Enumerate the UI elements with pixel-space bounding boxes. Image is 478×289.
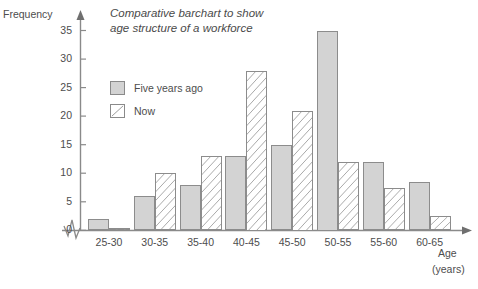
bar-30-35-now (155, 173, 176, 230)
y-tick-label: 30 (52, 52, 72, 64)
bar-60-65-now (430, 216, 451, 230)
x-axis-units: (years) (432, 263, 465, 275)
y-axis-title: Frequency (3, 8, 53, 20)
y-tick-label: 0 (52, 223, 72, 235)
x-tick-label-25-30: 25-30 (85, 236, 133, 248)
y-tick-label: 15 (52, 138, 72, 150)
y-tick-label: 35 (52, 24, 72, 36)
diagonal-hatch-icon (156, 174, 175, 229)
y-tick-label: 10 (52, 166, 72, 178)
diagonal-hatch-icon (111, 105, 124, 117)
chart-title-line-1: Comparative barchart to show (110, 6, 370, 21)
diagonal-hatch-icon (110, 229, 129, 230)
diagonal-hatch-icon (202, 157, 221, 229)
bar-60-65-five-years-ago (409, 182, 430, 231)
x-tick-label-35-40: 35-40 (177, 236, 225, 248)
legend-swatch-five-years-ago (110, 81, 125, 95)
diagonal-hatch-icon (431, 217, 450, 229)
bar-35-40-now (201, 156, 222, 230)
bar-55-60-five-years-ago (363, 162, 384, 231)
bar-45-50-five-years-ago (271, 145, 292, 231)
x-tick-label-30-35: 30-35 (131, 236, 179, 248)
legend-label-five-years-ago: Five years ago (134, 82, 203, 94)
x-tick-label-40-45: 40-45 (222, 236, 270, 248)
diagonal-hatch-icon (385, 189, 404, 230)
bar-25-30-five-years-ago (88, 219, 109, 230)
x-tick-label-60-65: 60-65 (406, 236, 454, 248)
y-axis-arrow-icon (77, 10, 85, 20)
y-tick-label: 25 (52, 81, 72, 93)
bar-55-60-now (384, 188, 405, 231)
diagonal-hatch-icon (247, 72, 266, 230)
legend-label-now: Now (134, 105, 155, 117)
bar-40-45-five-years-ago (225, 156, 246, 230)
bar-40-45-now (246, 71, 267, 231)
y-tick-label: 5 (52, 195, 72, 207)
barchart: Frequency Age (years) Comparative barcha… (0, 0, 478, 289)
bar-30-35-five-years-ago (134, 196, 155, 230)
bar-35-40-five-years-ago (180, 185, 201, 231)
x-tick-label-50-55: 50-55 (314, 236, 362, 248)
bar-50-55-five-years-ago (317, 31, 338, 231)
x-axis-title: Age (438, 247, 457, 259)
bar-25-30-now (109, 228, 130, 231)
bar-45-50-now (292, 111, 313, 231)
y-tick-label: 20 (52, 109, 72, 121)
diagonal-hatch-icon (339, 163, 358, 230)
bar-50-55-now (338, 162, 359, 231)
diagonal-hatch-icon (293, 112, 312, 230)
x-tick-label-45-50: 45-50 (268, 236, 316, 248)
x-tick-label-55-60: 55-60 (360, 236, 408, 248)
legend-swatch-now (110, 104, 125, 118)
x-axis-arrow-icon (462, 227, 472, 235)
